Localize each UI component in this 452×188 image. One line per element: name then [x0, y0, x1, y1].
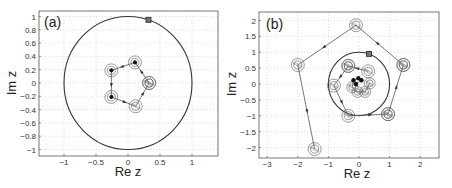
direction-arrow-icon: [140, 70, 144, 74]
cluster-dot: [351, 78, 355, 82]
y-tick-label: 2: [252, 17, 257, 26]
x-tick-label: −0.5: [88, 158, 104, 167]
y-tick-label: −2: [247, 144, 257, 153]
x-tick-label: −1: [59, 158, 69, 167]
panel-a: −1−0.500.5110.80.60.40.20−0.2−0.4−0.6−0.…: [4, 11, 218, 179]
x-tick-label: −2: [293, 160, 303, 169]
y-tick-label: 0: [32, 79, 37, 88]
panel-a-ylabel: Im z: [4, 71, 19, 96]
y-tick-label: −0.6: [20, 119, 36, 128]
direction-arrow-icon: [141, 91, 144, 95]
direction-arrow-icon: [120, 65, 125, 68]
y-tick-label: 0.4: [25, 52, 37, 61]
direction-arrow-icon: [110, 83, 113, 87]
x-tick-label: −3: [263, 160, 273, 169]
panel-b-label: (b): [266, 16, 283, 32]
panel-a-grid: [39, 11, 218, 156]
panel-b: −3−2−101221.510.50−0.5−1−1.5−2 (b) Re z …: [224, 12, 439, 181]
panel-a-ticks: −1−0.500.5110.80.60.40.20−0.2−0.4−0.6−0.…: [20, 13, 195, 168]
y-tick-label: −1: [27, 146, 37, 155]
x-tick-label: 1: [387, 160, 392, 169]
y-tick-label: 0.8: [25, 26, 37, 35]
y-tick-label: −1.5: [240, 128, 256, 137]
start-square-marker: [367, 51, 372, 56]
direction-arrow-icon: [322, 45, 326, 49]
panel-b-ylabel: Im z: [224, 72, 239, 97]
y-tick-label: −0.5: [240, 96, 256, 105]
y-tick-label: −0.2: [20, 92, 36, 101]
direction-arrow-icon: [395, 85, 398, 90]
direction-arrow-icon: [355, 67, 360, 70]
y-tick-label: 0: [252, 80, 257, 89]
panel-b-xlabel: Re z: [344, 166, 371, 181]
y-tick-label: 1.5: [245, 32, 257, 41]
y-tick-label: −1: [247, 112, 257, 121]
y-tick-label: 1: [32, 13, 37, 22]
cluster-dot: [359, 78, 363, 82]
start-square-marker: [146, 17, 151, 22]
y-tick-label: 0.5: [245, 64, 257, 73]
x-tick-label: 1: [190, 158, 195, 167]
y-tick-label: 0.6: [25, 39, 37, 48]
x-tick-label: 0.5: [154, 158, 166, 167]
filled-marker: [129, 56, 142, 69]
panel-a-axes-box: [39, 11, 218, 156]
direction-arrow-icon: [340, 100, 343, 105]
x-tick-label: 2: [418, 160, 423, 169]
y-tick-label: −0.4: [20, 106, 36, 115]
y-tick-label: 0.2: [25, 66, 37, 75]
y-tick-label: −0.8: [20, 132, 36, 141]
panel-b-plot-area: [291, 19, 410, 156]
figure: −1−0.500.5110.80.60.40.20−0.2−0.4−0.6−0.…: [0, 0, 452, 188]
panel-b-ticks: −3−2−101221.510.50−0.5−1−1.5−2: [240, 17, 423, 170]
cluster-dot: [354, 82, 358, 86]
panel-a-xlabel: Re z: [115, 164, 142, 179]
direction-arrow-icon: [122, 100, 127, 103]
y-tick-label: 1: [252, 48, 257, 57]
x-tick-label: −1: [324, 160, 334, 169]
panel-a-label: (a): [44, 14, 61, 30]
